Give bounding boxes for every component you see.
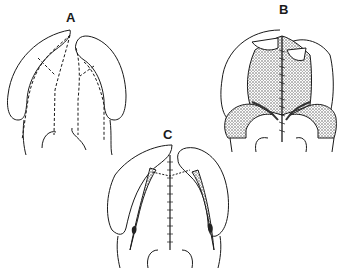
panel-c-left-flap xyxy=(107,145,172,234)
panel-c xyxy=(107,145,228,268)
panel-c-label: C xyxy=(163,127,173,142)
surgical-diagram: A B xyxy=(0,0,337,273)
diagram-canvas: A B xyxy=(0,0,337,273)
panel-b xyxy=(221,30,337,152)
panel-a-right-flap xyxy=(75,36,126,120)
panel-a xyxy=(7,30,126,155)
panel-a-label: A xyxy=(66,10,76,25)
panel-b-label: B xyxy=(279,2,288,17)
